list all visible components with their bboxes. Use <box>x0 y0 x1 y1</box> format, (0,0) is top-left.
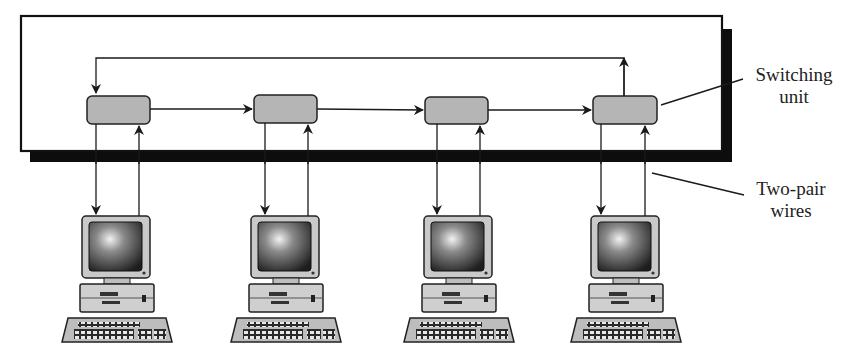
switching-unit-3 <box>425 97 488 124</box>
switching-unit-label-line2: unit <box>745 86 843 108</box>
two-pair-wires-leader <box>652 173 744 195</box>
switching-unit-2 <box>254 95 317 123</box>
station-3 <box>404 216 514 342</box>
station-4 <box>571 216 681 342</box>
two-pair-wires-label: Two-pair wires <box>745 178 837 222</box>
switching-unit-label-line1: Switching <box>745 64 843 86</box>
ring-topology-diagram <box>0 0 843 352</box>
two-pair-wires-label-line2: wires <box>745 200 837 222</box>
enclosure <box>21 16 732 162</box>
switching-unit-4 <box>593 96 657 124</box>
station-1 <box>62 216 172 342</box>
switching-unit-1 <box>87 96 150 124</box>
two-pair-wires-label-line1: Two-pair <box>745 178 837 200</box>
switching-unit-label: Switching unit <box>745 64 843 108</box>
station-2 <box>231 216 341 342</box>
